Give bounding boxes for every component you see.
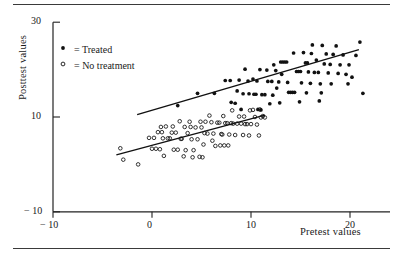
data-point-1-79 [242, 115, 246, 119]
data-point-0-9 [241, 92, 245, 96]
data-point-0-49 [318, 82, 322, 86]
y-tick-label-0: − 10 [24, 205, 42, 216]
data-point-0-23 [271, 93, 275, 97]
fit-line-0 [137, 50, 359, 115]
data-point-0-24 [274, 69, 278, 73]
y-axis-title: Posttest values [17, 20, 28, 116]
data-point-0-4 [228, 79, 232, 83]
data-point-1-31 [204, 120, 208, 124]
data-point-0-70 [243, 67, 247, 71]
data-point-0-45 [311, 43, 315, 47]
data-point-0-1 [196, 91, 200, 95]
data-point-1-2 [136, 163, 140, 167]
data-point-1-78 [199, 120, 203, 124]
data-point-1-1 [121, 158, 125, 162]
data-point-1-54 [249, 122, 253, 126]
data-point-1-15 [172, 148, 176, 152]
data-point-1-26 [194, 126, 198, 130]
data-point-1-62 [189, 125, 193, 129]
data-point-1-71 [230, 109, 234, 113]
data-point-0-8 [239, 108, 243, 112]
data-point-0-66 [258, 68, 262, 72]
data-point-1-77 [183, 125, 187, 129]
x-tick-label-3: 20 [345, 219, 355, 230]
data-point-0-40 [302, 51, 306, 55]
data-point-0-48 [316, 71, 320, 75]
data-point-0-21 [268, 102, 272, 106]
data-point-0-77 [329, 82, 333, 86]
data-point-0-5 [229, 100, 233, 104]
data-point-1-64 [161, 137, 165, 141]
data-point-0-43 [307, 70, 311, 74]
data-point-1-7 [156, 130, 160, 134]
data-point-0-78 [346, 82, 350, 86]
data-point-1-50 [241, 133, 245, 137]
x-tick-label-2: 10 [246, 219, 256, 230]
data-point-0-72 [305, 91, 309, 95]
legend-label-no-treatment: = No treatment [74, 60, 135, 71]
fit-line-1 [116, 115, 264, 155]
data-point-1-36 [214, 144, 218, 148]
data-point-1-57 [255, 123, 259, 127]
data-point-1-68 [191, 155, 195, 159]
data-point-0-51 [322, 62, 326, 66]
data-point-0-30 [285, 60, 289, 64]
x-tick-label-0: − 10 [40, 219, 58, 230]
data-point-0-55 [331, 53, 335, 57]
data-point-1-8 [158, 147, 162, 151]
data-point-1-46 [233, 133, 237, 137]
data-point-1-16 [174, 131, 178, 135]
data-point-1-27 [196, 137, 200, 141]
data-point-0-6 [233, 101, 237, 105]
data-point-0-7 [235, 89, 239, 93]
data-point-1-25 [192, 148, 196, 152]
legend-markers-group [61, 46, 65, 66]
data-point-1-33 [208, 114, 212, 118]
data-point-0-79 [292, 51, 296, 55]
data-point-0-61 [347, 63, 351, 67]
data-point-0-52 [324, 52, 328, 56]
legend-marker-filled-circle [61, 46, 65, 50]
x-tick-label-1: 0 [147, 219, 152, 230]
y-tick-label-1: 10 [31, 110, 41, 121]
legend-marker-open-circle [61, 62, 65, 66]
data-point-1-17 [176, 148, 180, 152]
data-point-1-10 [162, 154, 166, 158]
data-point-1-34 [210, 120, 214, 124]
data-point-1-35 [212, 132, 216, 136]
data-point-0-0 [176, 104, 180, 108]
data-point-1-22 [186, 131, 190, 135]
data-point-1-3 [147, 136, 151, 140]
data-point-0-46 [313, 71, 317, 75]
figure-container: Posttest values Pretest values − 101030−… [0, 0, 405, 259]
data-point-0-57 [336, 72, 340, 76]
data-point-1-21 [184, 148, 188, 152]
data-point-0-53 [326, 71, 330, 75]
data-point-1-4 [150, 147, 154, 151]
data-point-0-44 [309, 81, 313, 85]
data-point-0-35 [293, 91, 297, 95]
data-point-0-14 [254, 92, 258, 96]
data-point-1-20 [182, 155, 186, 159]
data-point-0-19 [265, 68, 269, 72]
data-point-0-54 [328, 63, 332, 67]
y-tick-label-2: 30 [31, 15, 41, 26]
legend-label-treated: = Treated [74, 44, 112, 55]
data-point-0-58 [338, 63, 342, 67]
data-point-0-68 [298, 100, 302, 104]
data-point-0-69 [317, 99, 321, 103]
data-point-0-31 [286, 81, 290, 85]
data-point-1-40 [221, 114, 225, 118]
data-point-0-74 [272, 63, 276, 67]
data-point-0-26 [277, 80, 281, 84]
data-point-1-48 [237, 115, 241, 119]
data-point-1-75 [226, 144, 230, 148]
data-point-0-63 [354, 54, 358, 58]
data-point-1-6 [154, 147, 158, 151]
data-point-0-56 [334, 44, 338, 48]
data-point-0-80 [310, 52, 314, 56]
data-point-0-65 [361, 91, 365, 95]
data-point-1-18 [178, 119, 182, 123]
data-point-0-62 [350, 75, 354, 79]
data-point-1-0 [119, 146, 123, 150]
